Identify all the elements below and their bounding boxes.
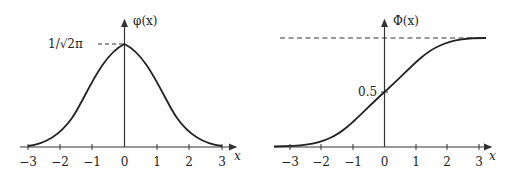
svg-text:−3: −3	[281, 155, 299, 169]
svg-text:2: 2	[185, 155, 193, 169]
svg-text:3: 3	[475, 155, 483, 169]
svg-text:0: 0	[381, 155, 389, 169]
cdf-y-label: Φ(x)	[393, 14, 419, 28]
svg-text:3: 3	[218, 155, 226, 169]
pdf-peak-label: 1/√2π	[48, 37, 83, 51]
svg-text:1: 1	[412, 155, 420, 169]
svg-text:2: 2	[443, 155, 451, 169]
cdf-chart: Φ(x) 0.5 x −3 −2 −1 0 1 2 3	[274, 14, 496, 169]
cdf-tick-labels: −3 −2 −1 0 1 2 3	[281, 155, 483, 169]
svg-text:0: 0	[121, 155, 129, 169]
svg-text:−1: −1	[83, 155, 101, 169]
svg-text:−3: −3	[19, 155, 37, 169]
pdf-x-label: x	[234, 149, 241, 163]
figure: φ(x) 1/√2π x −3 −2 −1 0 1 2 3 Φ(x)	[0, 0, 517, 181]
svg-text:−2: −2	[312, 155, 330, 169]
pdf-tick-labels: −3 −2 −1 0 1 2 3	[19, 155, 226, 169]
cdf-mid-label: 0.5	[358, 85, 377, 99]
cdf-x-label: x	[489, 149, 496, 163]
svg-text:−1: −1	[344, 155, 362, 169]
svg-text:1: 1	[153, 155, 161, 169]
svg-text:−2: −2	[51, 155, 69, 169]
pdf-chart: φ(x) 1/√2π x −3 −2 −1 0 1 2 3	[19, 14, 241, 169]
pdf-y-label: φ(x)	[133, 14, 158, 28]
cdf-curve	[274, 38, 486, 147]
